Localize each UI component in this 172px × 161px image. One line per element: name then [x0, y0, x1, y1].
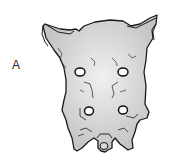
sacrum-illustration [0, 0, 172, 161]
upper-right-foramen [118, 68, 128, 76]
sacrum-body [43, 15, 157, 152]
upper-left-foramen [75, 68, 85, 76]
